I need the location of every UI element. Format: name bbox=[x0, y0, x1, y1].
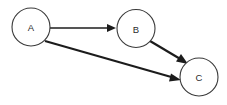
edge-b-to-c-line bbox=[150, 41, 182, 60]
graph-diagram: A B C bbox=[0, 0, 227, 105]
edge-a-to-c-arrowhead-icon bbox=[169, 74, 181, 82]
node-b-label: B bbox=[133, 24, 140, 35]
edge-a-to-c-line bbox=[45, 41, 173, 78]
node-a-label: A bbox=[28, 22, 35, 33]
node-c-label: C bbox=[195, 72, 202, 83]
edge-b-to-c bbox=[150, 41, 188, 64]
edge-a-to-b-arrowhead-icon bbox=[107, 24, 116, 32]
node-a[interactable]: A bbox=[12, 8, 50, 46]
edge-a-to-b bbox=[50, 24, 116, 32]
node-b[interactable]: B bbox=[117, 10, 155, 48]
node-c[interactable]: C bbox=[180, 58, 218, 96]
